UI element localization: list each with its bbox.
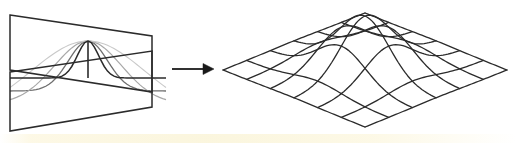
surface-grid-line-v-6 [365, 70, 507, 127]
figure-container [0, 0, 517, 143]
left-panel-crossing-planes [10, 15, 166, 131]
surface-grid-line-u-5 [247, 60, 389, 117]
right-panel-gaussian-surface [223, 13, 507, 127]
lower-plane-outline [10, 51, 152, 131]
surface-grid-lines-v [223, 13, 507, 127]
surface-grid-line-v-5 [341, 60, 483, 117]
surface-grid-line-u-3 [294, 15, 436, 98]
lower-plane [10, 51, 152, 131]
arrow-head [203, 64, 214, 75]
transform-arrow [172, 64, 214, 75]
surface-grid-line-u-6 [223, 70, 365, 127]
figure-svg [0, 0, 517, 143]
surface-grid-line-v-3 [294, 15, 436, 98]
